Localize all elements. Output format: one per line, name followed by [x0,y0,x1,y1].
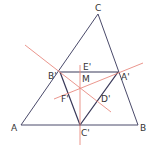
label-a-prime: A' [121,72,130,82]
label-c-prime: C' [81,128,90,138]
label-b: B [140,123,146,133]
label-b-prime: B' [48,71,57,81]
triangle-abc [21,14,138,125]
label-c: C [95,3,101,13]
label-d-prime: D' [101,94,110,104]
label-m: M [82,74,90,84]
label-f-prime: F' [61,94,69,104]
label-e-prime: E' [83,62,91,72]
geometry-diagram: A B C A' B' C' M D' E' F' [0,0,155,152]
label-a: A [11,123,18,133]
